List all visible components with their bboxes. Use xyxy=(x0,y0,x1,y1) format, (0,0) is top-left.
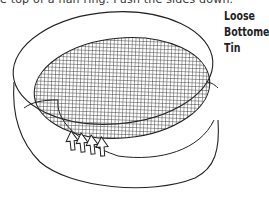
arrow-up-icon xyxy=(95,137,108,157)
loose-base-hatched xyxy=(20,30,220,150)
loose-bottomed-tin-illustration xyxy=(0,0,269,199)
